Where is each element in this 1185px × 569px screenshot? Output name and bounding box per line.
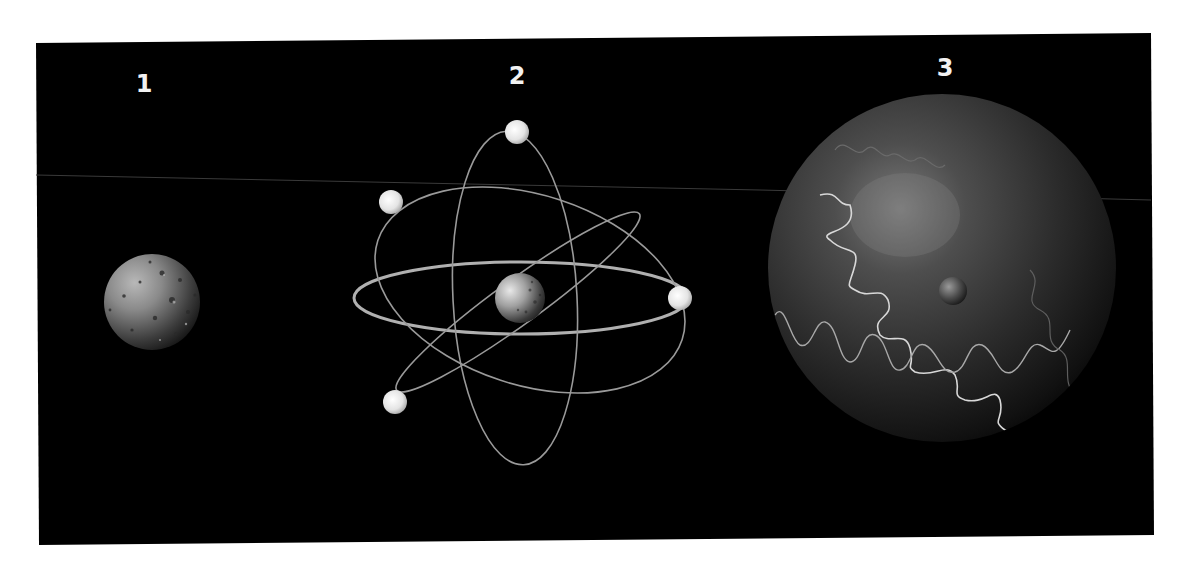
- electron-icon: [383, 390, 407, 414]
- panel-label-3: 3: [937, 54, 954, 82]
- panel-label-2: 2: [509, 62, 526, 90]
- small-nucleus-icon: [939, 277, 967, 305]
- large-sphere-icon: [768, 94, 1116, 442]
- electron-icon: [505, 120, 529, 144]
- atom-models-figure: 1 2: [0, 0, 1185, 569]
- nucleus-icon: [495, 273, 545, 323]
- electron-icon: [379, 190, 403, 214]
- panel-label-1: 1: [136, 70, 153, 98]
- solid-sphere-icon: [104, 254, 200, 350]
- electron-icon: [668, 286, 692, 310]
